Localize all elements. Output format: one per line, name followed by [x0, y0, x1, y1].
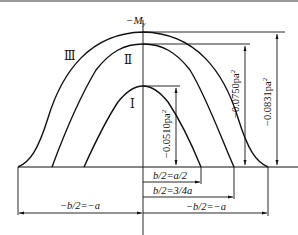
axis-label: −My [126, 14, 147, 28]
svg-text:−0.0510pa2: −0.0510pa2 [160, 109, 172, 158]
label-peak-III: −0.0831pa2 [261, 77, 273, 126]
svg-text:−0.0831pa2: −0.0831pa2 [261, 77, 273, 126]
curve-label-III: Ⅲ [64, 49, 76, 63]
label-peak-II: −0.0750pa2 [229, 69, 241, 118]
curve-I [84, 86, 201, 167]
svg-text:−0.0750pa2: −0.0750pa2 [229, 69, 241, 118]
diagram-canvas: −My Ⅲ Ⅱ Ⅰ −0.0510pa2 −0.0750pa2 −0.0831p… [0, 0, 298, 235]
curve-label-II: Ⅱ [124, 53, 132, 67]
curve-label-I: Ⅰ [130, 97, 135, 111]
label-width-III-left: −b/2=−a [60, 200, 100, 211]
label-width-II: b/2=3/4a [153, 185, 192, 196]
moment-distribution-diagram: −My Ⅲ Ⅱ Ⅰ −0.0510pa2 −0.0750pa2 −0.0831p… [0, 0, 298, 235]
label-width-III-right: −b/2=−a [186, 201, 226, 212]
label-peak-I: −0.0510pa2 [160, 109, 172, 158]
label-width-I: b/2=a/2 [153, 170, 188, 181]
